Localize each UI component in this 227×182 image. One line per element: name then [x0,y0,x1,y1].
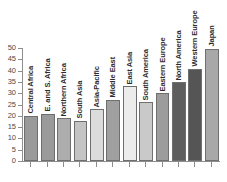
x-axis-tick [162,162,163,167]
y-axis-tick [18,138,22,139]
plot-area: 05101520253035404550 Central AfricaE. an… [22,48,220,166]
x-axis-tick [178,162,179,167]
y-axis-tick [18,161,22,162]
y-axis-tick [18,93,22,94]
x-axis-tick [129,162,130,167]
bar-category-label: Northern Africa [60,63,68,116]
y-axis-tick-label: 45 [8,56,16,64]
x-axis-tick [63,162,64,167]
x-axis-tick [96,162,97,167]
y-axis-tick-label: 0 [12,157,16,165]
bar: Central Africa [24,116,38,161]
x-axis-tick [47,162,48,167]
y-axis-tick [18,116,22,117]
bar-category-label: Asia-Pacific [93,66,101,107]
y-axis-tick-label: 5 [12,146,16,154]
bar: South Asia [74,121,88,161]
x-axis-tick [194,162,195,167]
x-axis-tick [145,162,146,167]
bar: Western Europe [188,69,202,161]
bar-category-label: Japan [208,26,216,47]
y-axis-tick [18,59,22,60]
bar-category-label: Middle East [110,57,118,98]
x-axis-tick [211,162,212,167]
bar: South America [139,102,153,161]
bars-layer: Central AfricaE. and S. AfricaNorthern A… [23,48,220,161]
bar-category-label: South America [142,49,150,100]
bar-chart-figure: 05101520253035404550 Central AfricaE. an… [0,0,227,182]
bar-category-label: E. and S. Africa [44,58,52,111]
bar-category-label: Western Europe [192,11,200,67]
y-axis-tick-label: 50 [8,44,16,52]
figure-top-caption [131,1,223,10]
y-axis-tick-label: 35 [8,78,16,86]
x-axis-line [22,161,220,162]
bar: Northern Africa [57,118,71,161]
bar-category-label: North America [175,30,183,80]
bar: Asia-Pacific [90,109,104,161]
x-axis-tick [30,162,31,167]
y-axis-tick-label: 15 [8,123,16,131]
y-axis-tick [18,82,22,83]
bar-category-label: Central Africa [27,66,35,114]
y-axis-tick [18,71,22,72]
x-axis-tick [112,162,113,167]
x-axis-tick [79,162,80,167]
y-axis-tick-label: 20 [8,112,16,120]
y-axis-tick [18,150,22,151]
bar: Japan [205,49,219,161]
bar: East Asia [123,86,137,161]
bar: Middle East [106,100,120,161]
y-axis-tick [18,105,22,106]
bar: E. and S. Africa [41,114,55,161]
y-axis-tick-label: 10 [8,135,16,143]
bar-category-label: Eastern Europe [159,37,167,91]
y-axis-tick-label: 30 [8,89,16,97]
bar: North America [172,82,186,161]
y-axis-tick-label: 25 [8,101,16,109]
bar-category-label: East Asia [126,52,134,85]
bar-category-label: South Asia [77,81,85,119]
y-axis-tick [18,48,22,49]
y-axis-tick-label: 40 [8,67,16,75]
y-axis-tick [18,127,22,128]
bar: Eastern Europe [156,93,170,161]
